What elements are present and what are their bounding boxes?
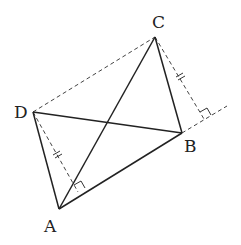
segment-AD [33, 112, 59, 209]
geometry-diagram: C D B A [0, 0, 241, 245]
segment-DB [33, 112, 182, 133]
dashed-extension-of-AB [182, 106, 227, 133]
label-A: A [43, 216, 57, 236]
dashed-perpendicular-from-D [33, 112, 78, 192]
label-B: B [184, 136, 197, 156]
equal-tick-mark-1 [53, 151, 62, 158]
label-C: C [152, 12, 165, 32]
segment-AB [59, 133, 182, 209]
dashed-segment-DC [33, 37, 155, 112]
dashed-perpendicular-from-C [155, 37, 204, 119]
segment-BC [155, 37, 182, 133]
label-D: D [14, 102, 28, 122]
right-angle-mark-2 [200, 108, 211, 115]
